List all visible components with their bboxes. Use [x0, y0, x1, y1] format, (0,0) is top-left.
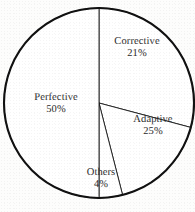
figure-caption [0, 205, 195, 212]
pie-label-adaptive-value: 25% [119, 126, 187, 138]
pie-label-others: Others 4% [81, 167, 121, 190]
pie-label-corrective-name: Corrective [101, 36, 173, 48]
pie-chart-figure: Corrective 21% Adaptive 25% Others 4% Pe… [0, 0, 195, 212]
pie-label-perfective: Perfective 50% [20, 92, 92, 115]
pie-label-adaptive-name: Adaptive [119, 114, 187, 126]
pie-label-perfective-value: 50% [20, 104, 92, 116]
pie-label-others-value: 4% [81, 179, 121, 191]
pie-label-others-name: Others [81, 167, 121, 179]
pie-label-perfective-name: Perfective [20, 92, 92, 104]
pie-label-corrective-value: 21% [101, 48, 173, 60]
pie-label-adaptive: Adaptive 25% [119, 114, 187, 137]
pie-label-corrective: Corrective 21% [101, 36, 173, 59]
